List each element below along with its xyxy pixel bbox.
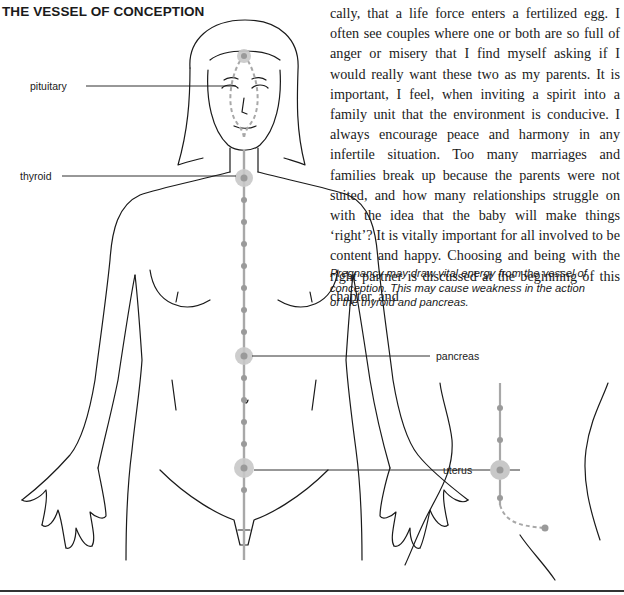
label-pancreas: pancreas bbox=[436, 350, 479, 362]
figure-caption: Pregnancy may draw vital energy from the… bbox=[330, 266, 590, 310]
label-uterus: uterus bbox=[443, 464, 472, 476]
label-pituitary: pituitary bbox=[30, 80, 67, 92]
body-paragraph: cally, that a life force enters a fertil… bbox=[330, 3, 620, 306]
body-text: cally, that a life force enters a fertil… bbox=[330, 3, 620, 306]
label-thyroid: thyroid bbox=[20, 170, 52, 182]
page-bottom-rule bbox=[0, 590, 624, 592]
